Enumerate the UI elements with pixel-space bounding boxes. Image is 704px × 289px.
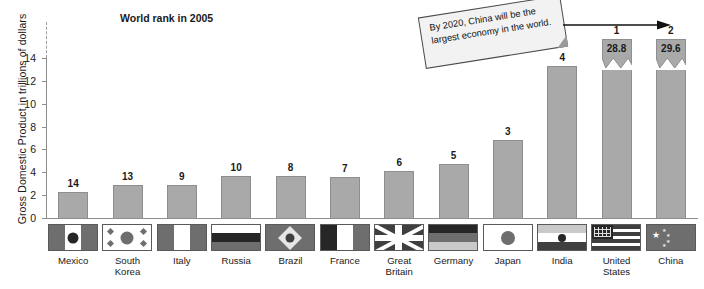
country-cell: France xyxy=(318,224,372,266)
country-label: Russia xyxy=(209,255,263,266)
bar-rank-label: 5 xyxy=(451,150,457,161)
y-tick-mark: 12 xyxy=(42,81,47,82)
bar-germany: 5 xyxy=(439,164,469,219)
country-axis: MexicoSouth KoreaItalyRussiaBrazilFrance… xyxy=(46,224,698,286)
y-tick-label: 12 xyxy=(24,76,36,87)
bar-united-states: 128.8 xyxy=(602,39,632,219)
note-fold-corner xyxy=(556,36,569,49)
annotation-text: By 2020, China will be the largest econo… xyxy=(429,6,552,45)
russia-flag xyxy=(211,224,261,251)
france-flag xyxy=(320,224,370,251)
country-label: United States xyxy=(589,255,643,277)
country-cell: Germany xyxy=(426,224,480,266)
bar-france: 7 xyxy=(330,177,360,219)
country-cell: ★★★★★China xyxy=(644,224,698,266)
country-label: Japan xyxy=(481,255,535,266)
japan-flag xyxy=(483,224,533,251)
country-label: France xyxy=(318,255,372,266)
bar-rank-label: 14 xyxy=(68,178,79,189)
bar-italy: 9 xyxy=(167,185,197,219)
brazil-flag xyxy=(265,224,315,251)
country-label: India xyxy=(535,255,589,266)
y-axis-title: Gross Domestic Product in trillions of d… xyxy=(16,12,28,227)
bar-rank-label: 8 xyxy=(288,162,294,173)
bar-india: 4 xyxy=(547,66,577,219)
bar-rank-label: 10 xyxy=(231,162,242,173)
bar-rank-label: 7 xyxy=(342,163,348,174)
bar-brazil: 8 xyxy=(276,176,306,219)
country-label: Great Britain xyxy=(372,255,426,277)
bar-rank-label: 13 xyxy=(122,171,133,182)
y-tick-label: 0 xyxy=(30,213,36,224)
italy-flag xyxy=(157,224,207,251)
country-label: China xyxy=(644,255,698,266)
y-tick-label: 8 xyxy=(30,121,36,132)
bar-rank-label: 3 xyxy=(505,126,511,137)
y-tick-label: 10 xyxy=(24,98,36,109)
y-axis-break-dashes xyxy=(46,22,47,58)
bar-rank-label: 4 xyxy=(559,52,565,63)
country-label: Germany xyxy=(426,255,480,266)
country-cell: Italy xyxy=(155,224,209,266)
axis-break-zigzag-icon xyxy=(656,58,686,70)
bar-south-korea: 13 xyxy=(113,185,143,219)
y-tick-mark: 14 xyxy=(42,58,47,59)
great-britain-flag xyxy=(374,224,424,251)
chart-figure: Gross Domestic Product in trillions of d… xyxy=(0,0,704,289)
y-tick-label: 14 xyxy=(24,53,36,64)
bar-rank-label: 9 xyxy=(179,171,185,182)
india-flag xyxy=(537,224,587,251)
south-korea-flag xyxy=(102,224,152,251)
country-cell: Russia xyxy=(209,224,263,266)
country-cell: United States xyxy=(589,224,643,277)
country-cell: Japan xyxy=(481,224,535,266)
country-label: Brazil xyxy=(263,255,317,266)
bar-mexico: 14 xyxy=(58,192,88,219)
bar-great-britain: 6 xyxy=(384,171,414,219)
bar-japan: 3 xyxy=(493,140,523,219)
bar-china: 229.6 xyxy=(656,39,686,219)
china-flag: ★★★★★ xyxy=(646,224,696,251)
y-tick-mark: 10 xyxy=(42,104,47,105)
bar-rank-label: 6 xyxy=(396,157,402,168)
germany-flag xyxy=(428,224,478,251)
y-tick-label: 6 xyxy=(30,144,36,155)
bar-value-label: 28.8 xyxy=(607,43,626,54)
y-tick-mark: 2 xyxy=(42,195,47,196)
bar-value-label: 29.6 xyxy=(661,43,680,54)
y-tick-mark: 8 xyxy=(42,127,47,128)
country-cell: Great Britain xyxy=(372,224,426,277)
x-axis-line xyxy=(46,218,698,219)
country-cell: Mexico xyxy=(46,224,100,266)
country-cell: Brazil xyxy=(263,224,317,266)
plot-area: 14121086420 1413910876534128.8229.6 xyxy=(46,14,698,219)
y-tick-mark: 4 xyxy=(42,172,47,173)
country-cell: India xyxy=(535,224,589,266)
y-tick-mark: 6 xyxy=(42,149,47,150)
mexico-flag xyxy=(48,224,98,251)
bar-russia: 10 xyxy=(221,176,251,219)
annotation-arrow-icon xyxy=(563,19,673,31)
country-label: Mexico xyxy=(46,255,100,266)
y-tick-label: 2 xyxy=(30,190,36,201)
axis-break-zigzag-icon xyxy=(602,58,632,70)
y-tick-mark: 0 xyxy=(42,218,47,219)
y-tick-label: 4 xyxy=(30,167,36,178)
country-label: South Korea xyxy=(100,255,154,277)
united-states-flag xyxy=(591,224,641,251)
country-cell: South Korea xyxy=(100,224,154,277)
country-label: Italy xyxy=(155,255,209,266)
